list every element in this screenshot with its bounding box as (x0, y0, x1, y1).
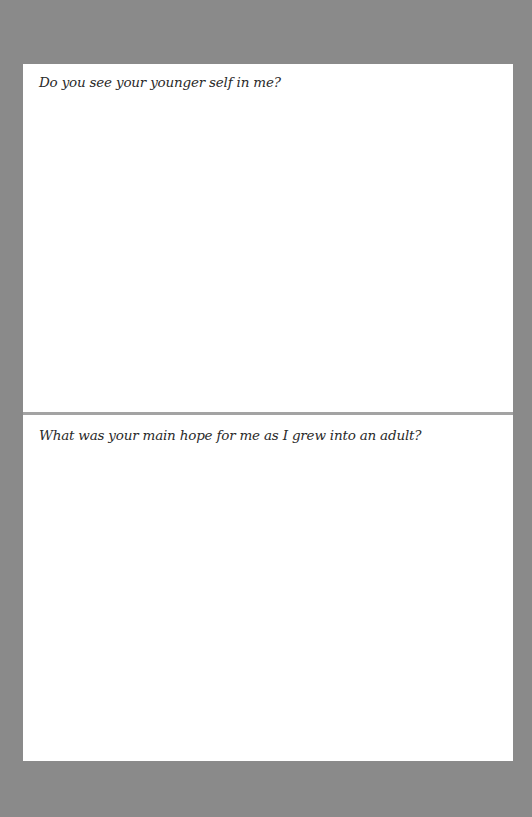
prompt-text: What was your main hope for me as I grew… (39, 427, 421, 443)
journal-page: Do you see your younger self in me? What… (23, 64, 513, 761)
prompt-section-2: What was your main hope for me as I grew… (23, 415, 513, 761)
prompt-text: Do you see your younger self in me? (39, 74, 281, 90)
prompt-section-1: Do you see your younger self in me? (23, 64, 513, 412)
